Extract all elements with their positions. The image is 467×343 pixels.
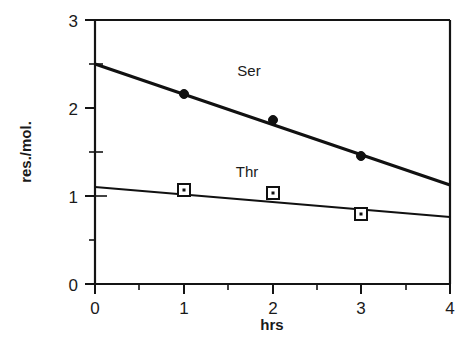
x-axis-title: hrs bbox=[260, 316, 283, 333]
axis-frame bbox=[95, 20, 450, 284]
y-tick-label-2: 2 bbox=[69, 100, 78, 119]
x-tick-label-4: 4 bbox=[445, 299, 454, 318]
chart-figure: 3 2 1 0 0 1 2 3 4 bbox=[0, 0, 467, 343]
y-tick-label-1: 1 bbox=[69, 188, 78, 207]
y-axis-ticks bbox=[85, 20, 95, 284]
y-axis-title: res./mol. bbox=[17, 121, 34, 183]
x-axis-ticks bbox=[95, 284, 450, 294]
x-tick-label-3: 3 bbox=[356, 299, 365, 318]
frame-inner-ticks bbox=[95, 64, 107, 196]
ser-point-2 bbox=[269, 116, 278, 125]
thr-point-3-center bbox=[360, 213, 363, 216]
x-tick-label-1: 1 bbox=[179, 299, 188, 318]
y-tick-label-0: 0 bbox=[69, 276, 78, 295]
thr-series-annotation: Thr bbox=[236, 163, 259, 180]
ser-point-1 bbox=[180, 90, 189, 99]
thr-point-1-center bbox=[183, 189, 186, 192]
scatter-plot: 3 2 1 0 0 1 2 3 4 bbox=[0, 0, 467, 343]
ser-point-3 bbox=[357, 152, 366, 161]
thr-point-2-center bbox=[272, 192, 275, 195]
y-axis-tick-labels: 3 2 1 0 bbox=[69, 12, 78, 295]
y-tick-label-3: 3 bbox=[69, 12, 78, 31]
ser-series-annotation: Ser bbox=[237, 62, 260, 79]
x-tick-label-0: 0 bbox=[90, 299, 99, 318]
